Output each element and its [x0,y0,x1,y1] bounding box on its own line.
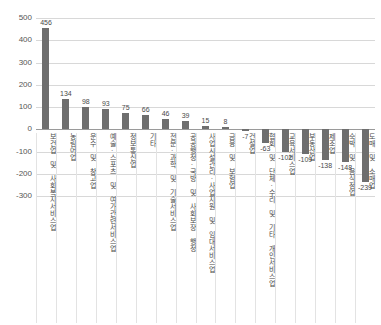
category-divider [76,133,77,323]
y-axis-tick: 200 [19,81,32,89]
category-divider [176,133,177,323]
category-label: 공공행정·국방 및 사회보장 행정 [176,133,196,323]
category-divider [315,133,316,323]
y-axis-tick: 500 [19,14,32,22]
category-label: 정보통신업 [116,133,136,323]
category-label: 기타 [136,133,156,323]
category-label: 협회 및 단체·수리 및 기타 개인서비스업 [255,133,275,323]
category-divider [355,133,356,323]
bar-chart: 5004003002001000-100-200-300 45613498937… [0,0,381,325]
category-label: 교육서비스업 [275,133,295,323]
category-divider [156,133,157,323]
category-divider [295,133,296,323]
category-label: 부동산업 [295,133,315,323]
category-divider [96,133,97,323]
y-axis-tick: 0 [28,125,32,133]
category-divider [335,133,336,323]
category-divider [36,133,37,323]
category-divider [136,133,137,323]
category-label: 사업시설관리·사업지원 및 임대서비스업 [196,133,216,323]
y-axis-tick: 100 [19,103,32,111]
category-label: 운수 및 창고업 [76,133,96,323]
category-label: 예술·스포츠 및 여가관련서비스업 [96,133,116,323]
y-axis-tick: -300 [16,192,32,200]
y-axis-tick: 400 [19,36,32,44]
category-divider [275,133,276,323]
category-label: 건설업 [235,133,255,323]
category-divider [116,133,117,323]
category-divider [235,133,236,323]
y-axis-tick: -100 [16,148,32,156]
category-label: 보건업 및 사회복지서비스업 [36,133,56,323]
category-label: 도매 및 소매업 [355,133,375,323]
y-axis-tick: -200 [16,170,32,178]
category-label: 농림어업 [56,133,76,323]
category-label: 전문·과학 및 기술서비스업 [156,133,176,323]
y-axis-tick-labels: 5004003002001000-100-200-300 [0,18,32,196]
category-divider [255,133,256,323]
category-labels: 보건업 및 사회복지서비스업농림어업운수 및 창고업예술·스포츠 및 여가관련서… [36,0,375,325]
category-divider [215,133,216,323]
y-axis-tick: 300 [19,59,32,67]
category-label: 제조업 [315,133,335,323]
category-divider [56,133,57,323]
category-label: 숙박 및 음식점업 [335,133,355,323]
category-divider [196,133,197,323]
category-label: 금융 및 보험업 [215,133,235,323]
